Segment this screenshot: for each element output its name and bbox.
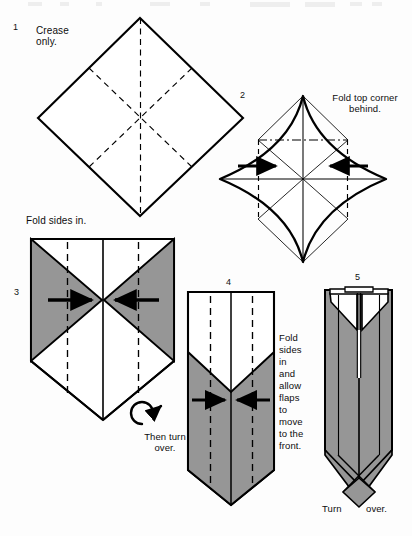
step-2-figure bbox=[220, 96, 386, 262]
step-4-caption: Fold sides in and allow flaps to move to… bbox=[279, 332, 303, 452]
step-number-1: 1 bbox=[13, 22, 18, 32]
step-number-4: 4 bbox=[226, 277, 231, 287]
step-number-2: 2 bbox=[240, 90, 245, 100]
origami-instruction-sheet: 1 2 3 4 5 Crease only. Fold top corner b… bbox=[0, 0, 412, 536]
step-1-caption: Crease only. bbox=[36, 25, 69, 47]
origami-diagram bbox=[0, 0, 412, 536]
step-3-turn-over-caption: Then turn over. bbox=[131, 432, 199, 453]
step-5-over-label: over. bbox=[366, 504, 387, 515]
step-number-3: 3 bbox=[14, 287, 19, 297]
step-5-turn-label: Turn bbox=[322, 504, 342, 515]
step-1-figure bbox=[38, 18, 243, 216]
step-number-5: 5 bbox=[355, 272, 360, 282]
scan-artifact-band bbox=[28, 2, 382, 7]
step-3-figure bbox=[31, 239, 174, 424]
step-4-figure bbox=[188, 292, 274, 505]
step-5-figure bbox=[325, 287, 392, 507]
turn-over-loop-arrow-icon bbox=[131, 402, 161, 424]
step-2-caption: Fold top corner behind. bbox=[320, 93, 410, 114]
step-3-caption: Fold sides in. bbox=[26, 215, 86, 226]
